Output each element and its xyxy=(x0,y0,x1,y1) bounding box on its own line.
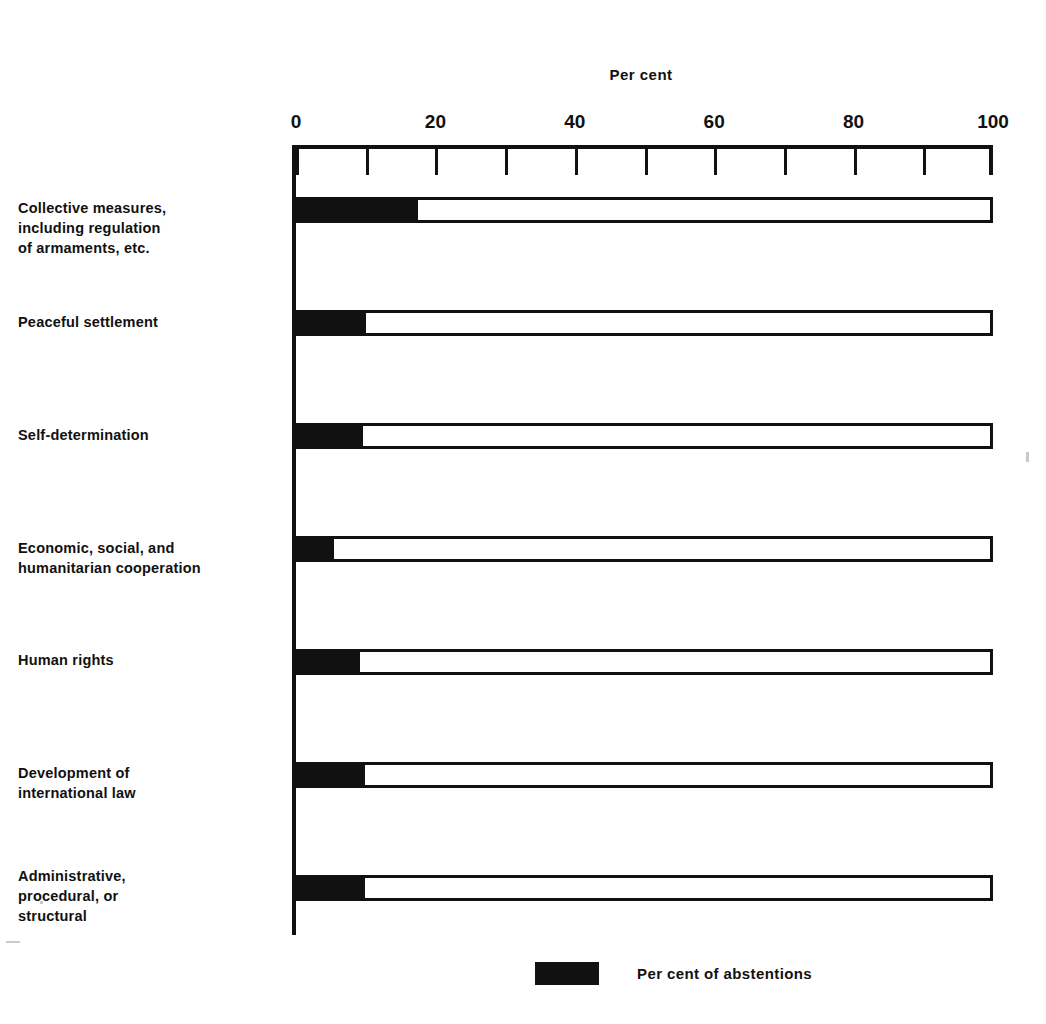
category-label: Economic, social, andhumanitarian cooper… xyxy=(18,538,280,578)
category-label-line: Economic, social, and xyxy=(18,538,262,558)
axis-tick xyxy=(505,149,508,175)
axis-title-text: Per cent xyxy=(609,66,672,83)
axis-tick xyxy=(575,149,578,175)
axis-tick xyxy=(854,149,857,175)
bar-row xyxy=(296,536,993,562)
axis-tick xyxy=(366,149,369,175)
category-label-line: procedural, or xyxy=(18,886,262,906)
bar-abstentions-segment xyxy=(296,310,366,336)
category-label-line: including regulation xyxy=(18,218,262,238)
category-label-line: Development of xyxy=(18,763,262,783)
legend-swatch-abstentions xyxy=(535,962,599,985)
category-label: Administrative,procedural, orstructural xyxy=(18,866,280,926)
bar-abstentions-segment xyxy=(296,536,334,562)
axis-tick xyxy=(990,149,993,175)
bar-row xyxy=(296,875,993,901)
axis-tick xyxy=(784,149,787,175)
category-label-line: Peaceful settlement xyxy=(18,312,262,332)
bar-row xyxy=(296,310,993,336)
bar-row xyxy=(296,197,993,223)
category-label: Human rights xyxy=(18,650,280,670)
bar-abstentions-segment xyxy=(296,762,365,788)
bar-row xyxy=(296,423,993,449)
category-label: Development ofinternational law xyxy=(18,763,280,803)
axis-tick xyxy=(923,149,926,175)
scan-speckle xyxy=(1026,452,1029,462)
legend: Per cent of abstentions xyxy=(535,962,812,985)
axis-tick-label: 100 xyxy=(977,111,1009,133)
bar-total-outline xyxy=(296,536,993,562)
bar-total-outline xyxy=(296,762,993,788)
axis-tick-label: 20 xyxy=(425,111,446,133)
bar-total-outline xyxy=(296,310,993,336)
scan-speckle xyxy=(6,941,20,943)
plot-area: 020406080100 xyxy=(296,145,993,935)
bar-abstentions-segment xyxy=(296,197,418,223)
category-label: Collective measures,including regulation… xyxy=(18,198,280,258)
axis-tick-label: 60 xyxy=(704,111,725,133)
category-label-line: of armaments, etc. xyxy=(18,238,262,258)
bar-row xyxy=(296,762,993,788)
bar-abstentions-segment xyxy=(296,875,365,901)
bar-total-outline xyxy=(296,875,993,901)
bar-abstentions-segment xyxy=(296,649,360,675)
axis-tick-label: 40 xyxy=(564,111,585,133)
axis-tick xyxy=(296,149,299,175)
bar-total-outline xyxy=(296,423,993,449)
axis-tick xyxy=(435,149,438,175)
bar-row xyxy=(296,649,993,675)
category-label-line: international law xyxy=(18,783,262,803)
category-label-line: structural xyxy=(18,906,262,926)
category-label-line: Self-determination xyxy=(18,425,262,445)
chart-root: Per cent Collective measures,including r… xyxy=(0,0,1046,1024)
category-label-line: Administrative, xyxy=(18,866,262,886)
category-label-line: humanitarian cooperation xyxy=(18,558,262,578)
bar-total-outline xyxy=(296,649,993,675)
category-label-line: Human rights xyxy=(18,650,262,670)
axis-tick-label: 80 xyxy=(843,111,864,133)
axis-title: Per cent xyxy=(0,66,1046,83)
category-label: Self-determination xyxy=(18,425,280,445)
axis-tick xyxy=(714,149,717,175)
legend-label-abstentions: Per cent of abstentions xyxy=(637,965,812,982)
category-label-line: Collective measures, xyxy=(18,198,262,218)
axis-tick-label: 0 xyxy=(291,111,302,133)
category-label: Peaceful settlement xyxy=(18,312,280,332)
scan-speckle xyxy=(40,901,43,904)
axis-tick xyxy=(645,149,648,175)
bar-abstentions-segment xyxy=(296,423,363,449)
